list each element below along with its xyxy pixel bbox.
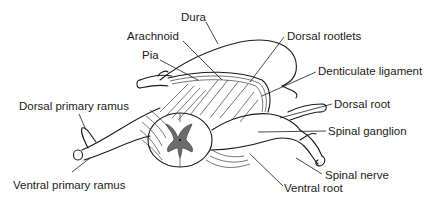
label-spinal-ganglion: Spinal ganglion: [328, 126, 407, 138]
label-arachnoid: Arachnoid: [127, 31, 179, 43]
label-spinal-nerve: Spinal nerve: [325, 170, 389, 182]
label-dorsal-primary-ramus: Dorsal primary ramus: [19, 101, 129, 113]
gray-matter: [166, 124, 193, 158]
label-denticulate-ligament: Denticulate ligament: [318, 66, 422, 78]
label-ventral-primary-ramus: Ventral primary ramus: [13, 180, 125, 192]
spinal-cord-diagram: Dura Arachnoid Pia Dorsal rootlets Denti…: [0, 0, 435, 204]
label-dorsal-rootlets: Dorsal rootlets: [287, 31, 361, 43]
label-dura: Dura: [181, 12, 206, 24]
label-dorsal-root: Dorsal root: [334, 99, 390, 111]
label-ventral-root: Ventral root: [284, 183, 343, 195]
label-pia: Pia: [142, 50, 159, 62]
